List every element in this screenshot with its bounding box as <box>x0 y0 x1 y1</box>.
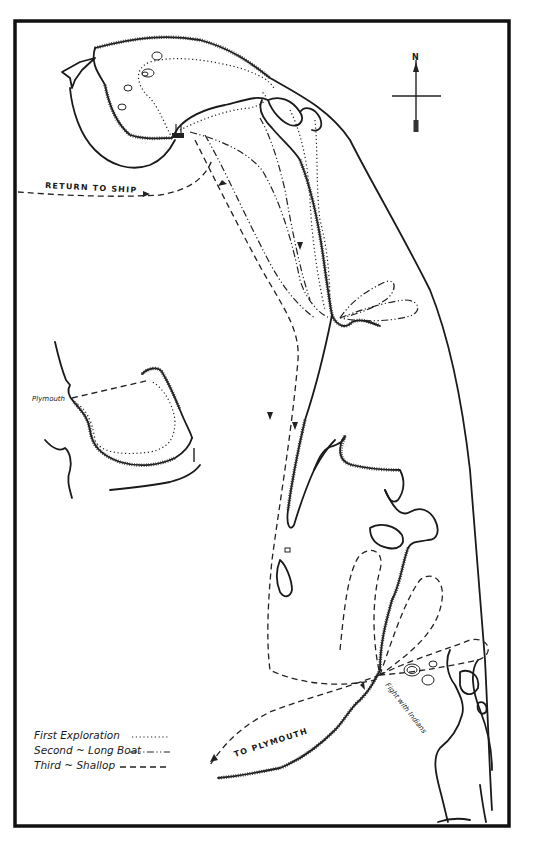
exploration-map: N <box>0 0 543 843</box>
compass-rose-icon: N <box>392 53 441 132</box>
lower-cape-coastline <box>218 650 492 822</box>
route-arrows <box>143 180 365 762</box>
svg-text:Second ~ Long Boat: Second ~ Long Boat <box>34 744 142 756</box>
plymouth-label: Plymouth <box>32 395 65 403</box>
legend-item-first: First Exploration <box>34 729 170 741</box>
route-second-long-boat <box>190 118 418 321</box>
return-to-ship-label: RETURN TO SHIP <box>45 181 138 195</box>
inset-map <box>45 342 200 498</box>
compass-north-label: N <box>412 53 419 62</box>
legend-item-second: Second ~ Long Boat <box>34 744 170 756</box>
legend: First Exploration Second ~ Long Boat Thi… <box>34 729 170 771</box>
to-plymouth-label: TO PLYMOUTH <box>233 726 309 758</box>
svg-text:First Exploration: First Exploration <box>34 729 120 741</box>
ship-icon <box>172 124 184 138</box>
cape-tip-coastline <box>62 37 492 810</box>
route-third-shallop <box>18 140 488 765</box>
cape-body-coastline <box>277 315 438 670</box>
fight-with-indians-label: Fight with Indians <box>383 681 428 735</box>
svg-text:Third ~ Shallop: Third ~ Shallop <box>34 759 115 771</box>
legend-item-third: Third ~ Shallop <box>34 759 168 771</box>
